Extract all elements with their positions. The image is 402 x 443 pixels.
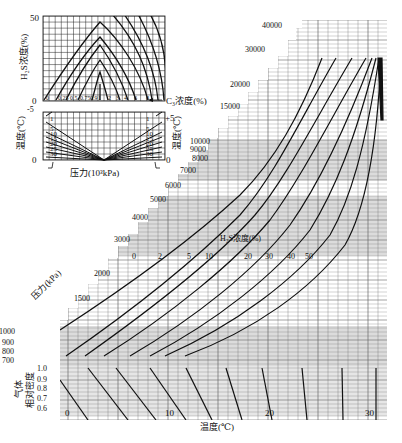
fan-label-right: 1 bbox=[146, 115, 150, 123]
c3-tick: 4 bbox=[124, 95, 127, 101]
inset-bottom-left-ylabel: 温度(℃) bbox=[15, 116, 26, 150]
pressure-tick: 30000 bbox=[245, 45, 265, 54]
series-label: 30 bbox=[265, 252, 273, 261]
inset-top-ylabel: H₂S浓度(%) bbox=[18, 34, 29, 80]
pressure-tick: 2000 bbox=[94, 269, 110, 278]
pressure-tick: 8000 bbox=[192, 154, 208, 163]
inset-bottom-right-tick-bottom: 0 bbox=[166, 155, 171, 165]
pressure-tick: 5000 bbox=[150, 195, 166, 204]
density-tick-labels: 1.00.90.80.70.6 bbox=[37, 364, 47, 413]
c3-tick: 0.9 bbox=[90, 95, 98, 101]
pressure-axis-label: 压力(kPa) bbox=[29, 267, 63, 301]
pressure-tick: 20000 bbox=[230, 80, 250, 89]
pressure-tick: 700 bbox=[2, 356, 14, 365]
inset-bottom-right-ylabel: 温度(℃) bbox=[171, 116, 182, 150]
series-label: 20 bbox=[244, 252, 252, 261]
series-label: 50 bbox=[305, 252, 313, 261]
density-tick: 0.6 bbox=[37, 404, 47, 413]
c3-tick: 0.25 bbox=[58, 95, 69, 101]
c3-tick: 2 bbox=[108, 95, 111, 101]
c3-tick: 0 bbox=[46, 95, 49, 101]
inset-right-arrow bbox=[155, 162, 160, 168]
inset-bottom-xlabel: 压力(10³kPa) bbox=[70, 167, 119, 178]
density-tick: 0.9 bbox=[37, 375, 47, 384]
c3-tick: 0.75 bbox=[80, 95, 91, 101]
series-label: 5 bbox=[187, 252, 191, 261]
inset-bottom-left-tick-top: -5 bbox=[27, 105, 34, 114]
c3-tick-labels: 00.250.50.750.9123468 bbox=[46, 95, 149, 101]
pressure-tick: 9000 bbox=[190, 145, 206, 154]
fan-label-left: 1 bbox=[50, 115, 54, 123]
fan-label-right: 30 bbox=[146, 150, 154, 158]
density-tick: 0.7 bbox=[37, 394, 47, 403]
series-label: 10 bbox=[205, 252, 213, 261]
pressure-tick: 800 bbox=[2, 347, 14, 356]
density-tick: 0.8 bbox=[37, 384, 47, 393]
pressure-tick: 1500 bbox=[74, 294, 90, 303]
h2s-series-label: H₂S浓度(%) bbox=[220, 233, 261, 243]
density-axis-label-line2: 相对密度 bbox=[24, 372, 35, 408]
c3-tick: 1 bbox=[98, 95, 101, 101]
inset-bottom-left-tick-bottom: 0 bbox=[32, 155, 37, 165]
series-label: 0 bbox=[132, 252, 136, 261]
inset-top-ytick-50: 50 bbox=[30, 13, 40, 23]
pressure-tick: 3000 bbox=[114, 235, 130, 244]
x-tick: 30 bbox=[365, 408, 375, 418]
series-label: 2 bbox=[158, 252, 162, 261]
fan-label-left: 30 bbox=[50, 150, 58, 158]
inset-top-chart bbox=[43, 14, 166, 101]
chart-svg: 00.250.50.750.9123468 50 0 -5 0 +5 0 H₂S… bbox=[0, 0, 402, 443]
density-axis-label-line1: 气体 bbox=[13, 380, 24, 398]
c3-tick: 6 bbox=[134, 95, 137, 101]
x-tick: 20 bbox=[265, 408, 275, 418]
x-axis-label: 温度(℃) bbox=[200, 421, 234, 432]
pressure-tick: 7000 bbox=[180, 166, 196, 175]
pressure-tick: 4000 bbox=[132, 213, 148, 222]
c3-tick: 0.5 bbox=[70, 95, 78, 101]
c3-axis-label: C₃浓度(%) bbox=[166, 95, 207, 106]
x-tick: 10 bbox=[165, 408, 175, 418]
hydrate-formation-chart: 00.250.50.750.9123468 50 0 -5 0 +5 0 H₂S… bbox=[0, 0, 402, 443]
pressure-tick: 40000 bbox=[262, 21, 282, 30]
pressure-tick: 900 bbox=[2, 338, 14, 347]
inset-left-arrow bbox=[48, 162, 53, 168]
x-tick: 0 bbox=[65, 408, 70, 418]
pressure-tick: 1000 bbox=[0, 327, 15, 336]
density-tick: 1.0 bbox=[37, 364, 47, 373]
series-label: 40 bbox=[287, 252, 295, 261]
c3-tick: 3 bbox=[116, 95, 119, 101]
pressure-tick: 6000 bbox=[165, 181, 181, 190]
pressure-tick: 15000 bbox=[220, 102, 240, 111]
